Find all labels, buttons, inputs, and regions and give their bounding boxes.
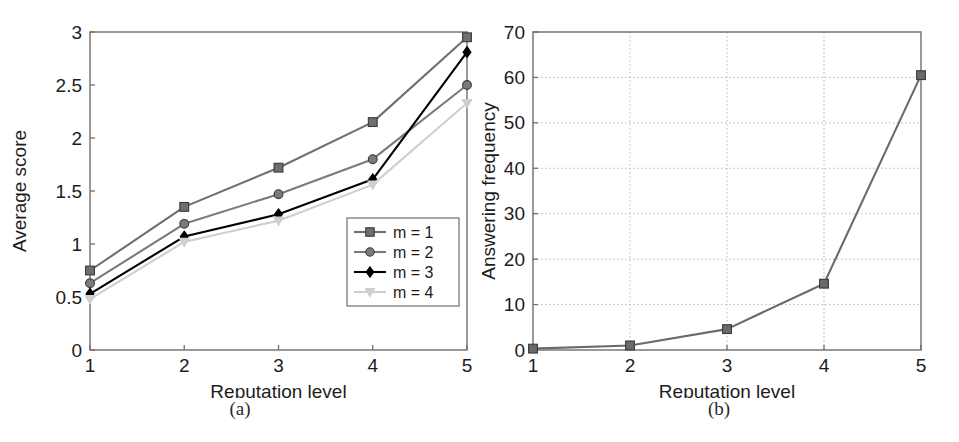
legend-label: m = 3 [393,264,434,281]
x-axis-tick-label: 5 [916,355,927,376]
panel-a-caption: (a) [0,398,480,420]
x-axis-title: Reputation level [659,381,795,398]
legend-label: m = 2 [393,244,434,261]
data-point-marker-square [368,118,377,127]
x-axis-tick-label: 2 [625,355,636,376]
data-point-marker-square [626,341,635,350]
x-axis-tick-label: 2 [179,355,190,376]
data-point-marker-circle [366,248,374,256]
y-axis-tick-label: 50 [504,112,525,133]
data-point-marker-circle [463,81,472,90]
x-axis-tick-label: 4 [367,355,378,376]
data-point-marker-square [180,203,189,212]
data-point-marker-circle [180,219,189,228]
y-axis-tick-label: 60 [504,67,525,88]
axes-frame [533,32,921,350]
panel-a: 00.511.522.5312345Reputation levelAverag… [0,0,480,442]
figure-two-panel: 00.511.522.5312345Reputation levelAverag… [0,0,959,442]
panel-b: 01020304050607012345Reputation levelAnsw… [479,0,959,442]
data-point-marker-square [86,266,95,275]
y-axis-title: Answering frequency [479,102,499,280]
data-point-marker-square [529,344,538,353]
x-axis-tick-label: 1 [85,355,96,376]
y-axis-tick-label: 2.5 [56,75,82,96]
data-point-marker-triangle [179,238,189,246]
y-axis-tick-label: 0 [514,340,525,361]
data-point-marker-circle [274,190,283,199]
x-axis-tick-label: 3 [722,355,733,376]
x-axis-tick-label: 3 [273,355,284,376]
y-axis-tick-label: 10 [504,294,525,315]
data-point-marker-square [366,228,374,236]
data-point-marker-circle [368,155,377,164]
legend: m = 1m = 2m = 3m = 4 [347,218,459,306]
y-axis-tick-label: 30 [504,203,525,224]
legend-label: m = 4 [393,284,434,301]
chart-a-average-score: 00.511.522.5312345Reputation levelAverag… [0,0,480,398]
y-axis-title: Average score [9,130,30,252]
chart-b-answering-frequency: 01020304050607012345Reputation levelAnsw… [479,0,959,398]
y-axis-tick-label: 1 [71,234,82,255]
y-axis-tick-label: 1.5 [56,181,82,202]
y-axis-tick-label: 70 [504,22,525,43]
x-axis-title: Reputation level [210,381,346,398]
data-point-marker-square [820,279,829,288]
x-axis-tick-label: 5 [462,355,473,376]
y-axis-tick-label: 0 [71,340,82,361]
data-point-marker-square [274,163,283,172]
data-point-marker-circle [86,279,95,288]
data-point-marker-triangle [85,296,95,304]
x-axis-tick-label: 4 [819,355,830,376]
data-point-marker-square [917,71,926,80]
y-axis-tick-label: 40 [504,158,525,179]
y-axis-tick-label: 3 [71,22,82,43]
legend-label: m = 1 [393,224,434,241]
y-axis-tick-label: 20 [504,249,525,270]
x-axis-tick-label: 1 [528,355,539,376]
panel-b-caption: (b) [479,398,959,420]
y-axis-tick-label: 0.5 [56,287,82,308]
data-point-marker-square [463,33,472,42]
data-point-marker-square [723,325,732,334]
y-axis-tick-label: 2 [71,128,82,149]
